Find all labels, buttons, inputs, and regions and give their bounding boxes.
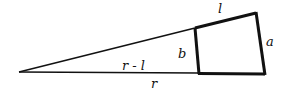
label-r-minus-l: r - l bbox=[122, 58, 145, 73]
label-r: r bbox=[151, 76, 158, 91]
hypotenuse-line bbox=[19, 28, 195, 72]
diagram-svg: l a b r - l r bbox=[0, 0, 282, 91]
label-l: l bbox=[218, 1, 222, 16]
side-b bbox=[195, 28, 199, 74]
label-b: b bbox=[178, 46, 186, 61]
base-segment bbox=[198, 74, 265, 75]
side-a bbox=[256, 12, 265, 75]
geometry-diagram: l a b r - l r bbox=[0, 0, 282, 91]
segment-l bbox=[195, 13, 256, 28]
base-r-minus-l bbox=[19, 72, 198, 73]
label-a: a bbox=[266, 34, 274, 49]
